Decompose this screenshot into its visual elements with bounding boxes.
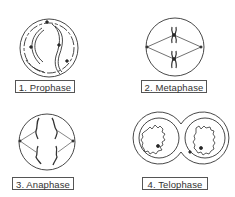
centriole-dot — [72, 140, 74, 142]
centriole-dot — [66, 60, 69, 63]
metaphase-label: 2. Metaphase — [141, 80, 207, 93]
centriole-dot — [189, 151, 191, 153]
centriole-dot — [146, 46, 148, 48]
centromere-dot — [58, 44, 61, 47]
prophase-label: 1. Prophase — [15, 80, 75, 93]
telophase-cell — [133, 112, 229, 164]
anaphase-membrane — [19, 114, 75, 170]
centriole-dot — [157, 145, 160, 148]
metaphase-membrane — [146, 18, 204, 76]
metaphase-spindle — [147, 35, 201, 59]
centriole-dot — [200, 147, 203, 150]
anaphase-chromosome — [36, 118, 58, 165]
centromere-dot — [173, 58, 176, 61]
centromere-dot — [173, 34, 176, 37]
anaphase-spindle — [20, 131, 73, 152]
telophase-chromatin-left — [141, 125, 165, 154]
centriole-dot — [46, 21, 49, 24]
prophase-chromosome — [35, 30, 44, 62]
prophase-cell — [20, 19, 78, 77]
centromere-dot — [30, 46, 33, 49]
anaphase-cell — [19, 114, 75, 170]
prophase-outer-membrane — [20, 19, 78, 77]
centriole-dot — [200, 46, 202, 48]
anaphase-label: 3. Anaphase — [12, 177, 74, 190]
mitosis-diagram — [0, 0, 235, 197]
centriole-dot — [19, 140, 21, 142]
prophase-chromosome — [26, 60, 44, 72]
metaphase-cell — [146, 18, 204, 76]
telophase-label: 4. Telophase — [142, 177, 208, 190]
telophase-chromatin-right — [193, 126, 215, 155]
